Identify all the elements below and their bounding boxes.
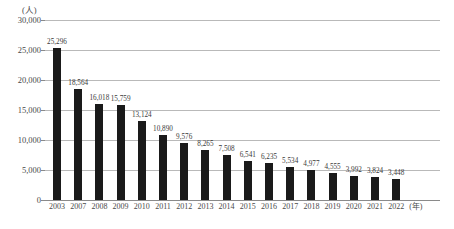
bar[interactable] xyxy=(329,173,337,200)
x-axis-tick-label: 2020 xyxy=(346,203,362,211)
bar[interactable] xyxy=(244,161,252,200)
y-axis-tick-label: 5,000 xyxy=(0,166,41,175)
x-axis-tick-label: 2014 xyxy=(219,203,235,211)
y-axis-unit-label: (人) xyxy=(22,3,37,15)
x-axis-tick-label: 2007 xyxy=(70,203,86,211)
x-axis-tick-label: 2019 xyxy=(325,203,341,211)
plot-area: 25,29618,56416,01815,75913,12410,8909,57… xyxy=(45,20,440,200)
bar[interactable] xyxy=(350,176,358,200)
bar[interactable] xyxy=(53,48,61,200)
bar[interactable] xyxy=(138,121,146,200)
bar-value-label: 25,296 xyxy=(47,39,67,46)
bar[interactable] xyxy=(307,170,315,200)
x-axis-tick-label: 2003 xyxy=(49,203,65,211)
bar-value-label: 16,018 xyxy=(90,95,110,102)
y-axis-tick-label: 15,000 xyxy=(0,106,41,115)
y-axis-tick-label: 30,000 xyxy=(0,16,41,25)
gridline-20000 xyxy=(45,80,440,81)
x-axis-tick-label: 2012 xyxy=(176,203,192,211)
bar-value-label: 7,508 xyxy=(219,146,235,153)
y-tick-mark xyxy=(41,170,45,171)
bar-value-label: 3,824 xyxy=(367,168,383,175)
bar-value-label: 8,265 xyxy=(197,141,213,148)
bar-value-label: 6,235 xyxy=(261,154,277,161)
bar-chart: (人) 25,29618,56416,01815,75913,12410,890… xyxy=(0,0,454,229)
gridline-10000 xyxy=(45,140,440,141)
bar-value-label: 3,448 xyxy=(388,170,404,177)
gridline-30000 xyxy=(45,20,440,21)
bar[interactable] xyxy=(286,167,294,200)
x-axis-tick-label: 2022 xyxy=(388,203,404,211)
x-axis-tick-label: 2010 xyxy=(134,203,150,211)
bar-value-label: 9,576 xyxy=(176,134,192,141)
bar-value-label: 4,555 xyxy=(325,164,341,171)
bar[interactable] xyxy=(95,104,103,200)
bar-value-label: 5,534 xyxy=(282,158,298,165)
y-tick-mark xyxy=(41,140,45,141)
x-axis-tick-label: 2016 xyxy=(261,203,277,211)
bar[interactable] xyxy=(265,163,273,200)
y-tick-mark xyxy=(41,50,45,51)
bar-value-label: 3,992 xyxy=(346,167,362,174)
bar[interactable] xyxy=(223,155,231,200)
y-tick-mark xyxy=(41,110,45,111)
bar-value-label: 18,564 xyxy=(68,80,88,87)
x-axis-tick-label: 2013 xyxy=(197,203,213,211)
gridline-0 xyxy=(45,200,440,201)
x-axis-tick-label: 2015 xyxy=(240,203,256,211)
bar[interactable] xyxy=(371,177,379,200)
bar-value-label: 13,124 xyxy=(132,112,152,119)
bar[interactable] xyxy=(201,150,209,200)
x-axis-tick-label: 2009 xyxy=(113,203,129,211)
y-axis-tick-label: 25,000 xyxy=(0,46,41,55)
x-axis-tick-label: 2011 xyxy=(155,203,171,211)
y-axis-tick-label: 0 xyxy=(0,196,41,205)
bar-value-label: 15,759 xyxy=(111,96,131,103)
gridline-25000 xyxy=(45,50,440,51)
y-axis-tick-label: 20,000 xyxy=(0,76,41,85)
x-axis-tick-label: 2008 xyxy=(91,203,107,211)
bar-value-label: 10,890 xyxy=(153,126,173,133)
y-tick-mark xyxy=(41,200,45,201)
gridline-15000 xyxy=(45,110,440,111)
bar[interactable] xyxy=(159,135,167,200)
bar-value-label: 4,977 xyxy=(303,161,319,168)
x-axis-tick-label: 2021 xyxy=(367,203,383,211)
x-axis-unit-label: (年) xyxy=(409,203,422,211)
bar[interactable] xyxy=(74,89,82,200)
bar[interactable] xyxy=(117,105,125,200)
bar[interactable] xyxy=(180,143,188,200)
bar[interactable] xyxy=(392,179,400,200)
x-axis-tick-label: 2017 xyxy=(282,203,298,211)
y-axis-tick-label: 10,000 xyxy=(0,136,41,145)
y-tick-mark xyxy=(41,80,45,81)
y-tick-mark xyxy=(41,20,45,21)
x-axis-tick-label: 2018 xyxy=(303,203,319,211)
bar-value-label: 6,541 xyxy=(240,152,256,159)
